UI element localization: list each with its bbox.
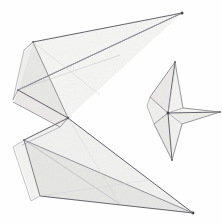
vertex-lower-tip [192, 212, 195, 215]
vertex-upper-shoulder [32, 41, 34, 43]
vertex-upper-tip [181, 12, 184, 15]
vertex-star-bottom-tip [171, 159, 173, 161]
vertex-upper-left-node [17, 89, 19, 91]
vertex-star-top-tip [174, 61, 176, 63]
vertex-lower-left-node [23, 139, 25, 141]
vertex-star-right-tip [219, 111, 221, 113]
vertex-star-center [167, 112, 170, 115]
origami-line-drawing [0, 0, 222, 224]
drawing-canvas [0, 0, 222, 224]
vertex-center-notch [67, 117, 69, 119]
